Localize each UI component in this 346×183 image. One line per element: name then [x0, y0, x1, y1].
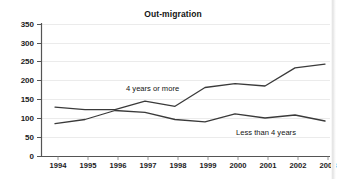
series-label-less-than-4-years: Less than 4 years	[236, 128, 296, 137]
x-axis-tick-1994: 1994	[43, 161, 73, 170]
x-axis-tick-1999: 1999	[193, 161, 223, 170]
series-4-years-or-more	[55, 64, 325, 110]
x-axis-tick-1997: 1997	[133, 161, 163, 170]
bottom-edge-margin	[0, 179, 346, 183]
series-label-4-years-or-more: 4 years or more	[126, 84, 179, 93]
y-axis	[37, 23, 42, 157]
right-edge-scan-artifact	[331, 0, 336, 183]
x-axis-tick-1995: 1995	[73, 161, 103, 170]
x-axis-tick-1998: 1998	[163, 161, 193, 170]
x-axis-tick-2003: 2003	[313, 161, 343, 170]
x-axis-tick-2000: 2000	[223, 161, 253, 170]
x-axis	[42, 157, 331, 161]
x-axis-tick-2001: 2001	[253, 161, 283, 170]
x-axis-tick-2002: 2002	[283, 161, 313, 170]
series-less-than-4-years	[55, 111, 325, 124]
x-axis-tick-1996: 1996	[103, 161, 133, 170]
out-migration-line-chart: Out-migration 350 300 250 200 150 100 50…	[0, 0, 346, 183]
